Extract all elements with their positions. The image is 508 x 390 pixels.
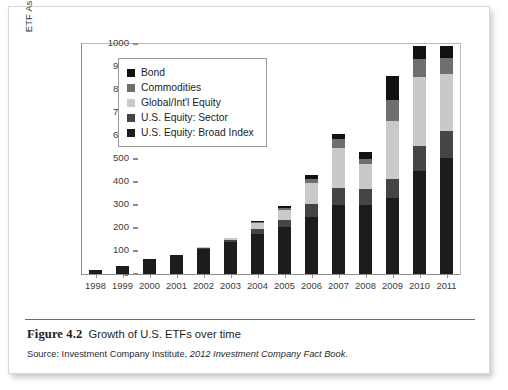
bar-segment bbox=[332, 139, 345, 147]
figure-page: ETF Assets ($ million) 01002003004005006… bbox=[8, 6, 490, 374]
bar-segment bbox=[332, 188, 345, 205]
legend-item-label: Commodities bbox=[141, 82, 201, 93]
bar-stack bbox=[413, 46, 426, 274]
caption-source-title: 2012 Investment Company Fact Book bbox=[190, 349, 346, 359]
bar-segment bbox=[386, 121, 399, 179]
x-axis-tick-label: 2008 bbox=[355, 280, 376, 291]
x-axis-tick-label: 2005 bbox=[274, 280, 295, 291]
bar-segment bbox=[413, 77, 426, 146]
bar-segment bbox=[332, 205, 345, 274]
bar-segment bbox=[359, 205, 372, 274]
legend-item-label: Bond bbox=[141, 67, 165, 78]
x-axis-tick-label: 2009 bbox=[382, 280, 403, 291]
legend-swatch-icon bbox=[127, 99, 135, 107]
bar-segment bbox=[305, 183, 318, 204]
legend-item-4[interactable]: U.S. Equity: Broad Index bbox=[127, 125, 254, 140]
legend-item-0[interactable]: Bond bbox=[127, 65, 254, 80]
x-axis-tick-label: 2011 bbox=[436, 280, 456, 291]
bar-stack bbox=[332, 134, 345, 274]
bar-segment bbox=[332, 148, 345, 188]
bar-stack bbox=[197, 247, 210, 274]
bar-segment bbox=[359, 152, 372, 159]
caption-source-suffix: . bbox=[345, 349, 348, 359]
bar-segment bbox=[143, 259, 156, 274]
x-axis-tick-mark bbox=[150, 274, 151, 278]
bar-stack bbox=[224, 238, 237, 274]
x-axis-tick-mark bbox=[258, 274, 259, 278]
x-axis-tick-mark bbox=[312, 274, 313, 278]
caption-title-text: Growth of U.S. ETFs over time bbox=[89, 328, 241, 340]
x-axis-tick-mark bbox=[420, 274, 421, 278]
x-axis-tick-mark bbox=[285, 274, 286, 278]
bar-segment bbox=[359, 189, 372, 205]
legend: BondCommoditiesGlobal/Int'l EquityU.S. E… bbox=[118, 58, 267, 147]
x-axis-tick-mark bbox=[447, 274, 448, 278]
x-axis-tick-mark bbox=[366, 274, 367, 278]
legend-item-1[interactable]: Commodities bbox=[127, 80, 254, 95]
x-axis-tick-mark bbox=[123, 274, 124, 278]
bar-stack bbox=[305, 175, 318, 274]
bar-segment bbox=[386, 198, 399, 274]
caption-source-prefix: Source: Investment Company Institute, bbox=[27, 349, 187, 359]
legend-item-label: Global/Int'l Equity bbox=[141, 97, 221, 108]
caption-source: Source: Investment Company Institute, 20… bbox=[27, 349, 477, 359]
x-axis-tick-mark bbox=[177, 274, 178, 278]
x-axis-tick-label: 1999 bbox=[112, 280, 133, 291]
x-axis-tick-label: 2004 bbox=[247, 280, 268, 291]
bar-stack bbox=[386, 76, 399, 274]
legend-item-label: U.S. Equity: Broad Index bbox=[141, 127, 254, 138]
x-axis-tick-mark bbox=[96, 274, 97, 278]
bar-stack bbox=[116, 266, 129, 274]
x-axis-tick-mark bbox=[393, 274, 394, 278]
x-axis-tick-label: 2006 bbox=[301, 280, 322, 291]
bar-segment bbox=[278, 227, 291, 274]
x-axis-tick-label: 2000 bbox=[139, 280, 160, 291]
bar-stack bbox=[440, 46, 453, 274]
chart-panel: ETF Assets ($ million) 01002003004005006… bbox=[25, 17, 475, 313]
caption-title: Growth of U.S. ETFs over time bbox=[82, 328, 241, 340]
bar-segment bbox=[359, 164, 372, 189]
bar-segment bbox=[413, 171, 426, 275]
bar-segment bbox=[224, 242, 237, 274]
bar-segment bbox=[413, 146, 426, 170]
bar-segment bbox=[413, 59, 426, 77]
bar-stack bbox=[143, 259, 156, 274]
bar-stack bbox=[278, 206, 291, 274]
bar-segment bbox=[305, 217, 318, 275]
caption-title-line: Figure 4.2 Growth of U.S. ETFs over time bbox=[27, 327, 477, 342]
legend-swatch-icon bbox=[127, 114, 135, 122]
caption-divider bbox=[25, 319, 475, 320]
x-axis-tick-label: 2002 bbox=[193, 280, 214, 291]
legend-swatch-icon bbox=[127, 69, 135, 77]
bar-stack bbox=[359, 152, 372, 274]
bar-segment bbox=[278, 220, 291, 227]
bar-segment bbox=[386, 100, 399, 121]
bar-stack bbox=[170, 255, 183, 274]
bar-segment bbox=[386, 76, 399, 100]
bar-segment bbox=[278, 210, 291, 220]
bar-segment bbox=[440, 158, 453, 274]
caption-block: Figure 4.2 Growth of U.S. ETFs over time… bbox=[27, 327, 477, 359]
bar-segment bbox=[440, 131, 453, 157]
x-axis-tick-label: 2003 bbox=[220, 280, 241, 291]
bar-segment bbox=[440, 46, 453, 58]
caption-figure-number: Figure 4.2 bbox=[27, 327, 82, 341]
x-axis-tick-label: 2007 bbox=[328, 280, 349, 291]
x-axis-tick-mark bbox=[204, 274, 205, 278]
bar-segment bbox=[251, 234, 264, 274]
bar-segment bbox=[440, 74, 453, 132]
bar-segment bbox=[413, 46, 426, 59]
bar-segment bbox=[440, 58, 453, 74]
x-axis-tick-label: 2001 bbox=[166, 280, 187, 291]
bar-segment bbox=[305, 204, 318, 217]
y-axis-title: ETF Assets ($ million) bbox=[23, 0, 34, 75]
legend-swatch-icon bbox=[127, 129, 135, 137]
bar-segment bbox=[116, 266, 129, 274]
bar-stack bbox=[251, 221, 264, 274]
bar-segment bbox=[170, 255, 183, 274]
legend-item-2[interactable]: Global/Int'l Equity bbox=[127, 95, 254, 110]
x-axis-tick-label: 2010 bbox=[409, 280, 430, 291]
legend-swatch-icon bbox=[127, 84, 135, 92]
bar-segment bbox=[197, 249, 210, 274]
legend-item-3[interactable]: U.S. Equity: Sector bbox=[127, 110, 254, 125]
